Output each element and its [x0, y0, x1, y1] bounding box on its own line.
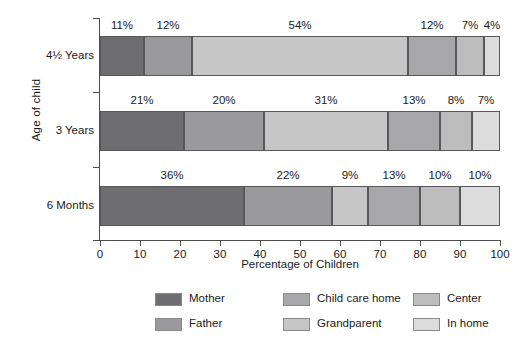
bar-segment-label: 22% — [268, 169, 308, 181]
x-axis-tick — [220, 240, 221, 246]
bar-segment — [472, 111, 500, 151]
x-axis-tick — [180, 240, 181, 246]
x-axis-tick — [100, 240, 101, 246]
bar-segment-label: 4% — [472, 19, 512, 31]
legend-label: Father — [189, 317, 222, 329]
x-axis-tick — [340, 240, 341, 246]
bar-stack: 11%12%54%12%7%4% — [100, 36, 500, 76]
x-axis-tick — [140, 240, 141, 246]
legend-label: Mother — [189, 292, 225, 304]
x-axis-tick — [500, 240, 501, 246]
bar-segment — [440, 111, 472, 151]
bar-segment-label: 7% — [466, 94, 506, 106]
x-axis-tick — [260, 240, 261, 246]
bar-stack: 21%20%31%13%8%7% — [100, 111, 500, 151]
bar-segment — [244, 186, 332, 226]
legend-label: Grandparent — [317, 317, 382, 329]
y-axis-tick — [93, 92, 100, 93]
bar-segment-label: 54% — [280, 19, 320, 31]
x-axis-tick — [420, 240, 421, 246]
legend-swatch — [413, 318, 440, 331]
category-label: 4½ Years — [32, 49, 94, 61]
legend-label: Center — [447, 292, 482, 304]
bar-segment — [100, 186, 244, 226]
bar-segment — [100, 36, 144, 76]
bar-segment — [456, 36, 484, 76]
x-axis-tick — [460, 240, 461, 246]
bar-segment — [408, 36, 456, 76]
x-axis-tick — [300, 240, 301, 246]
legend-swatch — [155, 293, 182, 306]
plot-area: 010203040506070809010011%12%54%12%7%4%21… — [100, 18, 500, 240]
bar-segment-label: 13% — [374, 169, 414, 181]
x-axis-tick — [380, 240, 381, 246]
bar-segment-label: 10% — [420, 169, 460, 181]
category-label: 6 Months — [32, 199, 94, 211]
bar-segment-label: 13% — [394, 94, 434, 106]
bar-segment — [368, 186, 420, 226]
stacked-bar-chart: Age of child 4½ Years3 Years6 Months 010… — [0, 0, 523, 354]
category-label-list: 4½ Years3 Years6 Months — [30, 0, 94, 240]
bar-segment — [332, 186, 368, 226]
legend-swatch — [283, 293, 310, 306]
bar-segment — [420, 186, 460, 226]
legend-swatch — [155, 318, 182, 331]
bar-segment — [100, 111, 184, 151]
bar-stack: 36%22%9%13%10%10% — [100, 186, 500, 226]
x-axis-title: Percentage of Children — [100, 258, 500, 270]
bar-segment-label: 12% — [148, 19, 188, 31]
category-label: 3 Years — [32, 124, 94, 136]
bar-segment — [184, 111, 264, 151]
bar-segment-label: 31% — [306, 94, 346, 106]
bar-segment-label: 21% — [122, 94, 162, 106]
bar-segment — [460, 186, 500, 226]
chart-legend: MotherFatherChild care homeGrandparentCe… — [155, 292, 485, 340]
bar-segment — [144, 36, 192, 76]
bar-segment-label: 9% — [330, 169, 370, 181]
bar-segment — [264, 111, 388, 151]
bar-segment-label: 36% — [152, 169, 192, 181]
bar-segment-label: 20% — [204, 94, 244, 106]
bar-segment-label: 11% — [102, 19, 142, 31]
legend-swatch — [283, 318, 310, 331]
bar-segment — [484, 36, 500, 76]
legend-label: In home — [447, 317, 489, 329]
bar-segment — [388, 111, 440, 151]
bar-segment-label: 12% — [412, 19, 452, 31]
bar-segment — [192, 36, 408, 76]
legend-swatch — [413, 293, 440, 306]
y-axis-tick — [93, 167, 100, 168]
legend-label: Child care home — [317, 292, 401, 304]
bar-segment-label: 10% — [460, 169, 500, 181]
y-axis-tick — [93, 18, 100, 19]
y-axis-tick — [93, 240, 100, 241]
